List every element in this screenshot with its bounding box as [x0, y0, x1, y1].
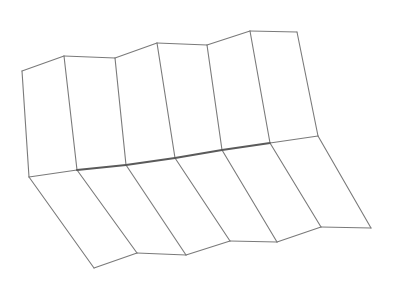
- folded-surface-diagram: [0, 0, 398, 291]
